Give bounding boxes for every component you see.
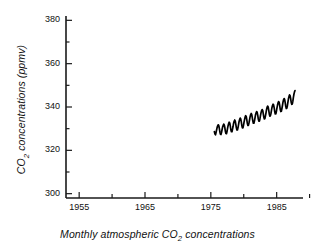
co2-chart-figure: 3003203403603801955196519751985 CO2 conc…	[0, 0, 315, 248]
y-axis-title-post: concentrations (ppmv)	[15, 45, 27, 154]
x-axis-tick-label: 1975	[191, 202, 231, 212]
y-axis-title: CO2 concentrations (ppmv)	[15, 25, 30, 195]
x-axis-tick-label: 1965	[125, 202, 165, 212]
x-axis-title-pre: Monthly atmospheric CO	[60, 228, 178, 240]
x-axis-tick-label: 1985	[257, 202, 297, 212]
y-axis-title-pre: CO	[15, 158, 27, 174]
x-axis-title: Monthly atmospheric CO2 concentrations	[0, 228, 315, 243]
x-axis-tick-label: 1955	[59, 202, 99, 212]
y-axis-title-sub: 2	[22, 154, 31, 158]
x-axis-title-post: concentrations	[182, 228, 255, 240]
y-axis-tick-label: 380	[24, 14, 60, 24]
